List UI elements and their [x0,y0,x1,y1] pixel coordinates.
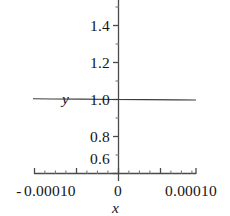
x-tick-label-zero: 0 [104,183,132,199]
plot-figure: 1.4 1.2 1.0 0.8 0.6 y -0.00010 0 0.00010… [0,0,230,216]
x-tick-label-negative-value: 0.00010 [24,182,76,199]
x-tick-label-negative: -0.00010 [2,183,90,199]
x-tick-label-positive: 0.00010 [152,183,230,199]
y-tick-label-1-0: 1.0 [74,92,110,108]
minus-sign: - [16,183,24,199]
y-tick-label-0-6: 0.6 [74,151,110,167]
data-curve [33,99,196,100]
y-tick-label-1-2: 1.2 [74,55,110,71]
y-tick-label-1-4: 1.4 [74,18,110,34]
y-tick-label-0-8: 0.8 [74,129,110,145]
x-axis-title: x [112,200,119,216]
y-axis-title: y [62,91,69,107]
